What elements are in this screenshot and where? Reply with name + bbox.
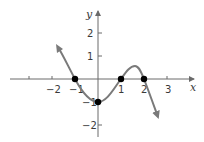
x-axis-label: x [190, 81, 197, 94]
curve-left-arrow-icon [56, 44, 63, 53]
point-1-0 [118, 76, 124, 82]
x-tick-label: 3 [165, 84, 171, 95]
point-0-neg1 [95, 99, 101, 105]
function-graph: −2 −1 1 2 3 2 1 −1 −2 x y [0, 0, 204, 142]
y-tick-label: 1 [87, 51, 93, 62]
point-neg1-0 [72, 76, 78, 82]
y-tick-label: 2 [87, 28, 93, 39]
point-2-0 [141, 76, 147, 82]
x-tick-label: 1 [118, 84, 124, 95]
y-tick-label: −2 [82, 120, 97, 131]
x-tick-label: −2 [46, 84, 61, 95]
y-axis-label: y [85, 8, 93, 21]
